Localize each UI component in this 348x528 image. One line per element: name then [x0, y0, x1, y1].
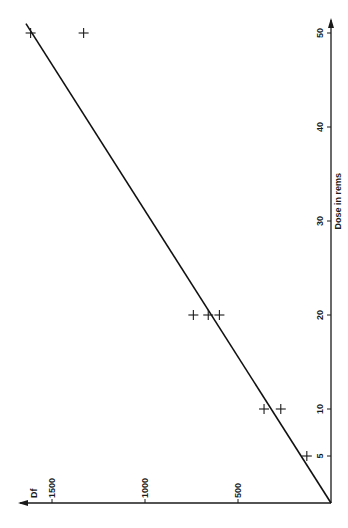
y-tick-label: 1000 [140, 478, 150, 498]
y-axis-arrow-icon [18, 500, 28, 506]
data-point [259, 404, 269, 414]
data-point [214, 310, 224, 320]
x-tick-label: 30 [315, 216, 325, 226]
x-axis-arrow-icon [328, 18, 334, 28]
chart: 5102030405050010001500 Dose in rems Df [0, 0, 348, 528]
y-tick-label: 500 [233, 483, 243, 498]
fit-line [26, 24, 331, 503]
data-points [26, 28, 312, 461]
x-tick-label: 40 [315, 122, 325, 132]
ticks: 5102030405050010001500 [47, 28, 331, 503]
x-tick-label: 10 [315, 404, 325, 414]
y-tick-label: 1500 [47, 478, 57, 498]
x-tick-label: 20 [315, 310, 325, 320]
data-point [79, 28, 89, 38]
x-axis-label: Dose in rems [333, 173, 343, 230]
data-point [188, 310, 198, 320]
x-tick-label: 5 [315, 453, 325, 458]
fit-line-group [26, 24, 331, 503]
y-axis-label: Df [29, 488, 39, 498]
data-point [203, 310, 213, 320]
data-point [276, 404, 286, 414]
x-tick-label: 50 [315, 28, 325, 38]
